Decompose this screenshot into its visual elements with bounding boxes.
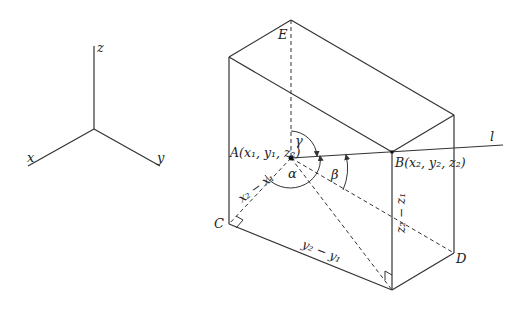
y-axis	[94, 129, 160, 166]
dz-label: z₂ − z₁	[395, 193, 407, 233]
gamma-label: γ	[295, 134, 303, 147]
x-axis	[28, 129, 94, 166]
right-angle-bottom	[385, 271, 392, 280]
dashed-A-to-D	[291, 158, 454, 253]
beta-label: β	[331, 168, 339, 181]
line-l-label: l	[490, 130, 494, 143]
alpha-label: α	[288, 167, 297, 180]
point-D-label: D	[456, 252, 466, 265]
point-A-label: A(x₁, y₁, z₂)	[230, 147, 300, 160]
point-C-label: C	[214, 217, 224, 230]
right-angle-C	[236, 216, 243, 228]
diagram-canvas: z x y E A(x₁, y₁, z₂) B(x₂, y₂, z₂) C D …	[0, 0, 526, 309]
beta-arc	[343, 155, 348, 190]
y-axis-label: y	[157, 151, 164, 164]
x-axis-label: x	[27, 151, 34, 164]
dashed-A-to-bottom	[291, 158, 392, 290]
point-B-label: B(x₂, y₂, z₂)	[395, 157, 466, 170]
point-B-dot	[390, 150, 394, 154]
z-axis-label: z	[97, 41, 104, 54]
coordinate-axes	[28, 46, 160, 166]
point-E-label: E	[278, 28, 288, 41]
